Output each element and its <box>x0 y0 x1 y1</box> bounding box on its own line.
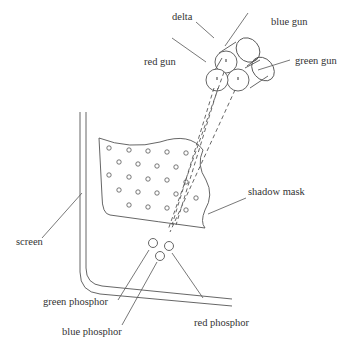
label-green-gun: green gun <box>295 56 337 67</box>
label-blue-gun: blue gun <box>271 17 307 28</box>
electron-guns <box>206 33 279 91</box>
label-blue-phosphor: blue phosphor <box>62 327 122 338</box>
screen-outline <box>80 112 232 306</box>
phosphor-triad <box>149 239 174 261</box>
label-red-gun: red gun <box>144 57 176 68</box>
shadow-mask-plate <box>99 138 210 228</box>
label-delta: delta <box>172 12 192 23</box>
label-screen: screen <box>16 237 43 248</box>
shadow-mask-holes <box>107 146 198 212</box>
label-green-phosphor: green phosphor <box>43 297 108 308</box>
label-shadow-mask: shadow mask <box>248 187 305 198</box>
label-red-phosphor: red phosphor <box>194 318 249 329</box>
electron-beams <box>168 72 235 232</box>
blue-gun-shape <box>215 33 265 73</box>
crt-shadow-mask-diagram: delta blue gun red gun green gun shadow … <box>0 0 356 350</box>
